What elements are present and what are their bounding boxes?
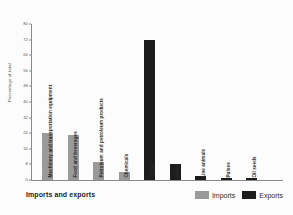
- chart-legend: ImportsExports: [195, 191, 283, 199]
- y-tick-mark: [29, 133, 31, 134]
- category-label: Coffee: [151, 163, 156, 178]
- y-tick-mark: [29, 148, 31, 149]
- bar-coffee: [144, 40, 155, 180]
- y-tick-mark: [29, 117, 31, 118]
- legend-label: Imports: [212, 192, 235, 199]
- category-label: Pulses: [228, 163, 233, 178]
- legend-swatch-icon: [242, 191, 256, 199]
- y-tick-mark: [29, 24, 31, 25]
- y-tick-mark: [29, 180, 31, 181]
- bar-pulses: [221, 178, 232, 180]
- category-label: Oil seeds: [253, 157, 258, 178]
- y-tick-mark: [29, 86, 31, 87]
- bar-oil-seeds: [246, 178, 257, 180]
- category-label: Petroleum and petroleum products: [100, 98, 105, 178]
- y-tick-mark: [29, 102, 31, 103]
- category-label: Machinery and transportation equipment: [49, 85, 54, 178]
- y-tick-mark: [29, 164, 31, 165]
- y-tick-mark: [29, 70, 31, 71]
- y-axis-title: Percentage of total: [7, 63, 12, 102]
- y-tick-mark: [29, 55, 31, 56]
- category-label: Hides: [177, 165, 182, 178]
- legend-item-exports[interactable]: Exports: [242, 191, 283, 199]
- y-tick-mark: [29, 39, 31, 40]
- category-label: Chemicals: [126, 154, 131, 178]
- legend-swatch-icon: [195, 191, 209, 199]
- category-label: Live animals: [202, 149, 207, 178]
- category-label: Food and beverages: [75, 132, 80, 178]
- chart-figure: Percentage of total 08162432404856647280…: [0, 0, 293, 215]
- chart-title: Imports and exports: [26, 191, 95, 198]
- x-axis-line: [31, 180, 283, 181]
- legend-item-imports[interactable]: Imports: [195, 191, 235, 199]
- plot-area: 08162432404856647280 Machinery and trans…: [31, 24, 283, 180]
- legend-label: Exports: [259, 192, 283, 199]
